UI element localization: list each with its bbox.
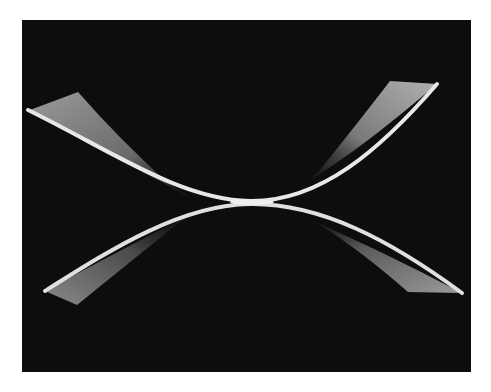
fin-lower-right (300, 215, 462, 293)
crossing-highlight (230, 199, 274, 205)
saddle-strip-figure (0, 0, 491, 392)
fin-lower-left (45, 215, 190, 305)
fin-upper-right (310, 81, 437, 180)
